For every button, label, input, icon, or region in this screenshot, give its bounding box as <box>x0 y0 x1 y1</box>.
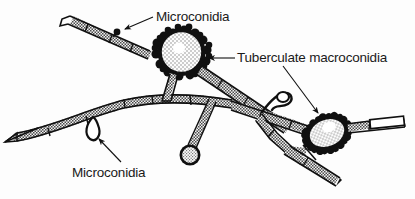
label-microconidia-top: Microconidia <box>156 9 230 24</box>
label-microconidia-bottom: Microconidia <box>72 165 146 180</box>
microconidium-round-spore <box>180 145 201 166</box>
fungal-morphology-diagram: Microconidia Tuberculate macroconidia Mi… <box>0 0 415 199</box>
figure-container: Microconidia Tuberculate macroconidia Mi… <box>0 0 415 199</box>
label-tuberculate-macroconidia: Tuberculate macroconidia <box>237 50 388 65</box>
